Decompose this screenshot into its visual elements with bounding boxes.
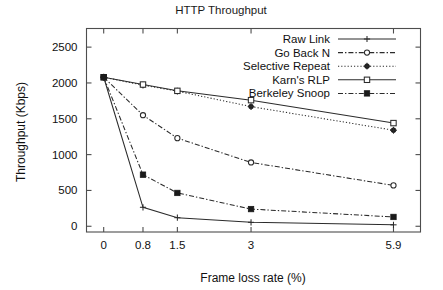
data-point-marker xyxy=(101,75,106,80)
data-point-marker xyxy=(248,206,253,211)
x-tick-label: 1.5 xyxy=(169,239,185,251)
legend-label-5: Berkeley Snoop xyxy=(249,87,330,99)
y-tick-label: 1500 xyxy=(52,113,78,125)
x-tick-label: 0 xyxy=(100,239,106,251)
x-tick-label: 3 xyxy=(248,239,254,251)
data-point-marker xyxy=(140,113,145,118)
x-tick-label: 0.8 xyxy=(135,239,151,251)
data-point-marker xyxy=(140,82,145,87)
legend-label-4: Karn's RLP xyxy=(272,74,330,86)
y-tick-label: 2000 xyxy=(52,77,78,89)
data-point-marker xyxy=(175,136,180,141)
y-tick-label: 2500 xyxy=(52,41,78,53)
data-point-marker xyxy=(175,190,180,195)
y-axis-label: Throughput (Kbps) xyxy=(14,82,28,182)
x-axis-label: Frame loss rate (%) xyxy=(200,271,305,285)
data-point-marker xyxy=(248,160,253,165)
data-point-marker xyxy=(175,88,180,93)
legend-label-2: Go Back N xyxy=(274,47,330,59)
y-tick-label: 1000 xyxy=(52,149,78,161)
data-point-marker xyxy=(391,214,396,219)
y-tick-label: 500 xyxy=(58,184,77,196)
legend-label-3: Selective Repeat xyxy=(243,60,331,72)
data-point-marker xyxy=(391,120,396,125)
chart-title: HTTP Throughput xyxy=(175,4,267,16)
data-point-marker xyxy=(364,91,369,96)
chart-canvas: HTTP Throughput 05001000150020002500 00.… xyxy=(0,0,443,290)
legend-label-1: Raw Link xyxy=(283,33,331,45)
y-tick-label: 0 xyxy=(71,220,77,232)
data-point-marker xyxy=(364,50,369,55)
x-tick-label: 5.9 xyxy=(385,239,401,251)
data-point-marker xyxy=(364,77,369,82)
data-point-marker xyxy=(140,172,145,177)
data-point-marker xyxy=(391,183,396,188)
http-throughput-chart: HTTP Throughput 05001000150020002500 00.… xyxy=(0,0,443,290)
